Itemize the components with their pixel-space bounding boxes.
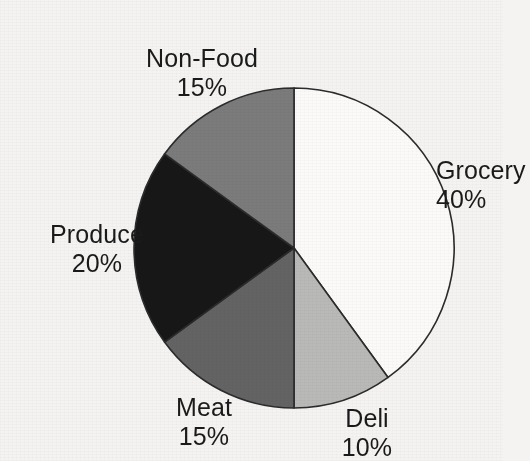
pie-label-non-food-name: Non-Food	[102, 44, 302, 73]
pie-label-produce: Produce 20%	[32, 220, 162, 278]
pie-label-meat-value: 15%	[148, 422, 260, 451]
pie-label-grocery-name: Grocery	[436, 156, 530, 185]
pie-label-produce-name: Produce	[32, 220, 162, 249]
pie-label-deli: Deli 10%	[319, 404, 415, 461]
pie-label-produce-value: 20%	[32, 249, 162, 278]
pie-label-meat-name: Meat	[148, 393, 260, 422]
pie-chart-figure: Grocery 40% Deli 10% Meat 15% Produce 20…	[40, 16, 463, 445]
pie-label-grocery: Grocery 40%	[436, 156, 530, 214]
pie-label-grocery-value: 40%	[436, 185, 530, 214]
pie-label-non-food: Non-Food 15%	[102, 44, 302, 102]
pie-label-meat: Meat 15%	[148, 393, 260, 451]
pie-slice-group	[134, 88, 454, 408]
pie-label-deli-value: 10%	[319, 433, 415, 461]
pie-label-non-food-value: 15%	[102, 73, 302, 102]
pie-label-deli-name: Deli	[319, 404, 415, 433]
